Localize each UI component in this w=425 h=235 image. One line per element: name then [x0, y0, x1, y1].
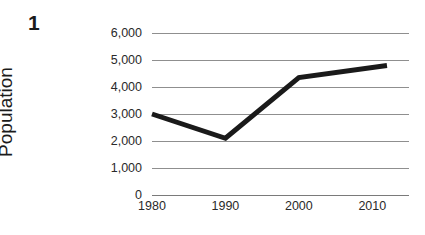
- x-tick-label: 2010: [358, 199, 386, 213]
- x-axis-tick-labels: 1980199020002010: [152, 199, 409, 219]
- x-tick-label: 2000: [285, 199, 313, 213]
- y-tick-label: 6,000: [111, 26, 142, 40]
- y-tick-label: 5,000: [111, 53, 142, 67]
- y-axis-title: Population: [0, 42, 17, 182]
- figure-number-label: 1: [28, 12, 40, 33]
- y-tick-label: 3,000: [111, 107, 142, 121]
- x-tick-label: 1990: [212, 199, 240, 213]
- y-tick-label: 1,000: [111, 161, 142, 175]
- figure-container: 1 Population 01,0002,0003,0004,0005,0006…: [0, 0, 425, 235]
- y-tick-label: 4,000: [111, 80, 142, 94]
- plot-area: [152, 33, 409, 195]
- x-axis-baseline: [152, 195, 409, 196]
- line-series-svg: [152, 33, 409, 195]
- x-tick-label: 1980: [138, 199, 166, 213]
- population-line-series: [152, 65, 387, 138]
- y-axis-tick-labels: 01,0002,0003,0004,0005,0006,000: [96, 33, 148, 195]
- y-tick-label: 2,000: [111, 134, 142, 148]
